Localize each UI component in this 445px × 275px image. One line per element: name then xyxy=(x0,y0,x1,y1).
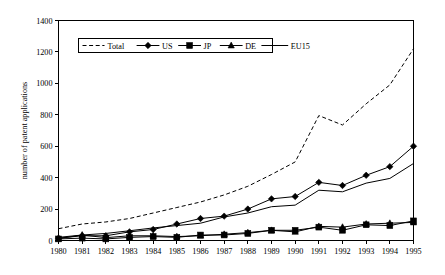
y-axis-ticks xyxy=(55,21,59,241)
y-tick-label: 800 xyxy=(40,111,52,120)
patent-applications-line-chart: 0200400600800100012001400 19801981198219… xyxy=(0,0,445,275)
series-layer xyxy=(55,49,416,242)
marker-diamond xyxy=(245,206,251,212)
series-path-de xyxy=(59,222,414,238)
x-tick-label: 1991 xyxy=(311,247,327,256)
x-tick-label: 1983 xyxy=(121,247,137,256)
x-tick-label: 1987 xyxy=(216,247,232,256)
marker-diamond xyxy=(363,172,369,178)
marker-diamond xyxy=(316,179,322,185)
x-tick-label: 1990 xyxy=(287,247,303,256)
marker-square xyxy=(187,43,193,49)
y-axis-title-text: number of patent applications xyxy=(20,82,29,180)
y-tick-label: 200 xyxy=(40,205,52,214)
y-tick-label: 1200 xyxy=(36,48,52,57)
y-tick-label: 400 xyxy=(40,174,52,183)
plot-frame xyxy=(59,21,414,241)
x-tick-label: 1980 xyxy=(50,247,66,256)
legend-label-eu15: EU15 xyxy=(291,42,310,51)
x-axis-ticks xyxy=(59,241,414,245)
series-us xyxy=(55,143,416,241)
chart-container: 0200400600800100012001400 19801981198219… xyxy=(0,0,445,275)
y-axis-tick-labels: 0200400600800100012001400 xyxy=(36,17,52,246)
marker-diamond xyxy=(339,182,345,188)
marker-diamond xyxy=(292,193,298,199)
x-tick-label: 1994 xyxy=(382,247,398,256)
series-jp xyxy=(56,218,417,242)
legend-label-jp: JP xyxy=(204,42,212,51)
marker-diamond xyxy=(268,196,274,202)
series-de xyxy=(55,219,416,241)
y-tick-label: 1400 xyxy=(36,17,52,26)
x-axis-tick-labels: 1980198119821983198419851986198719881989… xyxy=(50,247,421,256)
y-axis-title: number of patent applications xyxy=(20,82,29,180)
marker-diamond xyxy=(197,215,203,221)
chart-legend: TotalUSJPDEEU15 xyxy=(79,39,310,53)
y-tick-label: 1000 xyxy=(36,79,52,88)
x-tick-label: 1984 xyxy=(145,247,161,256)
x-tick-label: 1981 xyxy=(74,247,90,256)
series-path-jp xyxy=(59,221,414,239)
x-tick-label: 1989 xyxy=(263,247,279,256)
plot-area-border xyxy=(59,21,414,241)
series-total xyxy=(59,49,414,229)
x-tick-label: 1986 xyxy=(192,247,208,256)
legend-label-de: DE xyxy=(245,42,256,51)
legend-label-total: Total xyxy=(108,42,125,51)
y-tick-label: 600 xyxy=(40,142,52,151)
legend-label-us: US xyxy=(162,42,173,51)
x-tick-label: 1993 xyxy=(358,247,374,256)
x-tick-label: 1982 xyxy=(98,247,114,256)
x-tick-label: 1995 xyxy=(405,247,421,256)
x-tick-label: 1992 xyxy=(334,247,350,256)
y-tick-label: 0 xyxy=(48,237,52,246)
x-tick-label: 1985 xyxy=(169,247,185,256)
series-path-total xyxy=(59,49,414,229)
x-tick-label: 1988 xyxy=(240,247,256,256)
